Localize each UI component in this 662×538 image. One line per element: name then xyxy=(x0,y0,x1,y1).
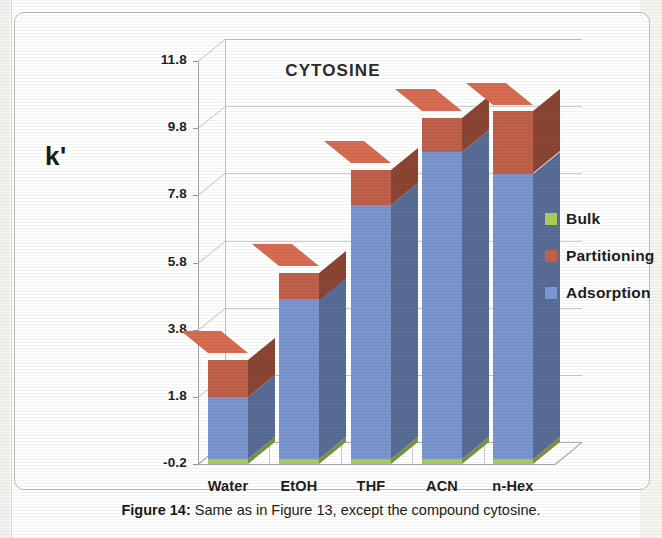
bar-segment-partitioning xyxy=(422,118,462,152)
bar-segment-partitioning xyxy=(351,170,391,205)
legend-label: Partitioning xyxy=(566,247,655,265)
bar-segment-bulk xyxy=(208,459,248,464)
bar-segment-front xyxy=(351,170,391,205)
bar-segment-bulk xyxy=(493,459,533,464)
y-axis-tick-label: 9.8 xyxy=(168,119,187,134)
floor-front-edge xyxy=(198,464,555,465)
floor-right-diagonal xyxy=(555,442,583,465)
y-axis-tick xyxy=(193,195,198,196)
bar-segment-adsorption xyxy=(208,397,248,459)
legend-swatch-bulk xyxy=(545,213,557,225)
bar-segment-front xyxy=(279,273,319,300)
figure-caption: Figure 14: Same as in Figure 13, except … xyxy=(0,502,662,518)
legend-item-bulk[interactable]: Bulk xyxy=(545,210,655,228)
y-axis-tick xyxy=(193,464,198,465)
bar-segment-front xyxy=(208,397,248,459)
bar-segment-front xyxy=(208,360,248,397)
bar-top-face xyxy=(395,89,462,111)
bar-segment-partitioning xyxy=(208,360,248,397)
chart-title: CYTOSINE xyxy=(15,61,651,81)
bar-n-hex[interactable] xyxy=(493,13,533,464)
y-axis-tick-label: 5.8 xyxy=(168,254,187,269)
bar-water[interactable] xyxy=(208,13,248,464)
bar-segment-front xyxy=(493,174,533,459)
bar-segment-partitioning xyxy=(493,111,533,173)
y-axis-tick xyxy=(193,397,198,398)
legend-label: Bulk xyxy=(566,210,600,228)
bar-segment-bulk xyxy=(422,459,462,464)
bar-segment-front xyxy=(422,459,462,464)
legend-item-partitioning[interactable]: Partitioning xyxy=(545,247,655,265)
legend-swatch-adsorption xyxy=(545,287,557,299)
bar-segment-front xyxy=(493,111,533,173)
bar-segment-adsorption xyxy=(493,174,533,459)
bar-segment-bulk xyxy=(351,459,391,464)
y-axis-title: k' xyxy=(45,141,67,172)
legend-swatch-partitioning xyxy=(545,250,557,262)
bar-segment-adsorption xyxy=(279,299,319,459)
bar-segment-adsorption xyxy=(351,205,391,459)
bar-segment-front xyxy=(493,459,533,464)
caption-text: Same as in Figure 13, except the compoun… xyxy=(191,502,541,518)
legend-item-adsorption[interactable]: Adsorption xyxy=(545,284,655,302)
bar-top-face xyxy=(324,141,391,163)
bar-top-face xyxy=(252,244,319,266)
y-axis-tick-label: 7.8 xyxy=(168,186,187,201)
bar-segment-side xyxy=(462,130,489,459)
bar-segment-side xyxy=(319,277,346,459)
bar-segment-front xyxy=(351,459,391,464)
legend-label: Adsorption xyxy=(566,284,651,302)
bar-top-face xyxy=(466,83,533,105)
y-axis-tick-label: 1.8 xyxy=(168,388,187,403)
bar-thf[interactable] xyxy=(351,13,391,464)
page-edge-line xyxy=(11,0,12,538)
figure-container: -0.21.83.85.87.89.811.8k'CYTOSINEWaterEt… xyxy=(0,0,662,538)
bar-acn[interactable] xyxy=(422,13,462,464)
bar-segment-partitioning xyxy=(279,273,319,300)
bar-segment-bulk xyxy=(279,459,319,464)
bar-segment-front xyxy=(279,299,319,459)
y-axis-tick xyxy=(193,263,198,264)
chart-legend: BulkPartitioningAdsorption xyxy=(545,210,655,321)
bar-segment-front xyxy=(208,459,248,464)
bar-top-face xyxy=(181,331,248,353)
bar-segment-adsorption xyxy=(422,152,462,459)
bar-segment-front xyxy=(351,205,391,459)
caption-prefix: Figure 14: xyxy=(121,502,190,518)
bar-segment-side xyxy=(391,183,418,459)
bar-etoh[interactable] xyxy=(279,13,319,464)
y-axis-tick xyxy=(193,128,198,129)
bar-segment-front xyxy=(422,152,462,459)
y-axis-tick-label: -0.2 xyxy=(163,455,187,470)
bar-segment-front xyxy=(422,118,462,152)
x-axis-tick-label: n-Hex xyxy=(471,478,555,494)
bar-segment-front xyxy=(279,459,319,464)
